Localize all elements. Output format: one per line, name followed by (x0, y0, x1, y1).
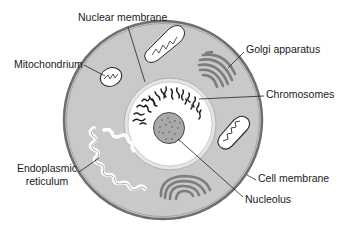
cell-diagram: Nuclear membrane Mitochondrium Golgi app… (0, 0, 344, 229)
label-mitochondrium: Mitochondrium (14, 58, 83, 70)
label-chromosomes: Chromosomes (266, 88, 334, 100)
label-cell-membrane: Cell membrane (258, 172, 329, 184)
cell-illustration (0, 0, 344, 229)
nucleolus (154, 113, 185, 144)
label-endoplasmic-reticulum-line2: reticulum (16, 175, 78, 187)
label-nuclear-membrane: Nuclear membrane (78, 11, 167, 23)
leader-cell-membrane (247, 175, 256, 180)
label-golgi-apparatus: Golgi apparatus (246, 43, 320, 55)
label-endoplasmic-reticulum-line1: Endoplasmic (16, 162, 78, 174)
label-nucleolus: Nucleolus (245, 193, 291, 205)
